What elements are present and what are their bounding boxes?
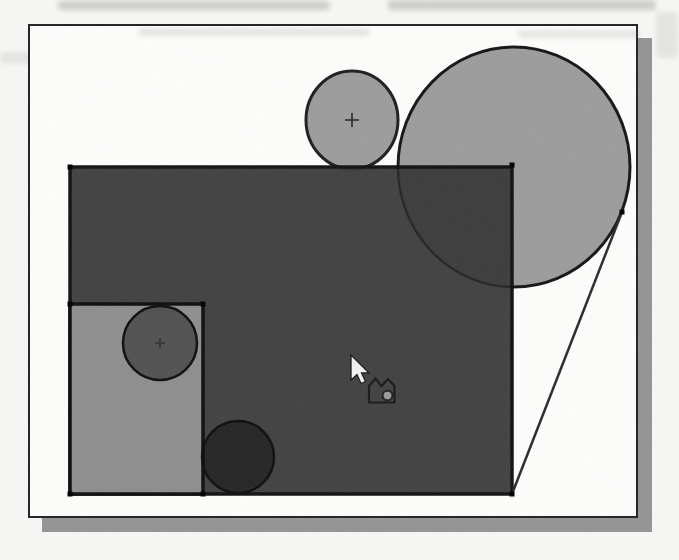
scan-noise-overlay <box>0 0 679 560</box>
scanned-figure <box>0 0 679 560</box>
sketch-geometry-layer <box>0 0 679 560</box>
